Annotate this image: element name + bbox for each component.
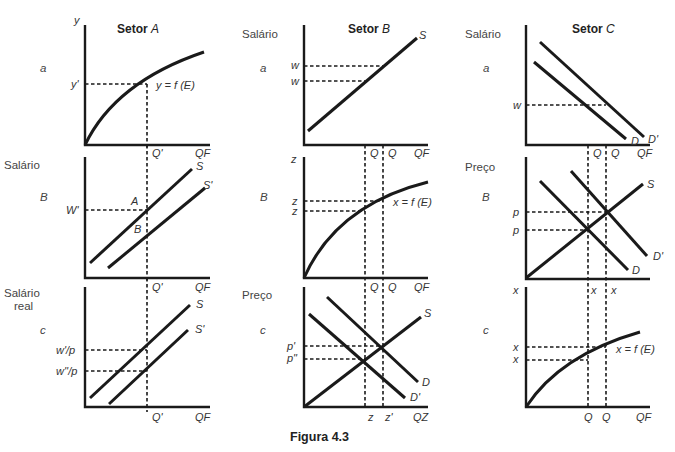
curve-label: x = f (E) bbox=[615, 343, 655, 355]
x-tick-q-1: Q bbox=[584, 411, 593, 423]
x-tick-z: z bbox=[367, 411, 374, 423]
sector-b: Setor B Salário a w w S Q Q QF z B z z x… bbox=[242, 22, 432, 423]
row-label-a: a bbox=[260, 62, 266, 74]
y-tick-x-1: x bbox=[512, 341, 519, 353]
x-axis-label: QF bbox=[195, 147, 212, 159]
y-axis-label: z bbox=[290, 153, 297, 165]
row-label-c: c bbox=[260, 324, 266, 336]
panel-a-c: Salário real c w'/p w''/p S S' Q' QF bbox=[4, 278, 212, 423]
supply-s bbox=[90, 305, 190, 398]
y-tick-w-2: w bbox=[291, 75, 300, 87]
guide-y-prime bbox=[85, 84, 147, 150]
y-tick-w-1: w bbox=[291, 59, 300, 71]
sector-c: Setor C Salário a w D D' Q Q QF Preço B … bbox=[465, 22, 664, 423]
y-axis-label: Preço bbox=[242, 289, 272, 301]
x-tick-q-2: Q bbox=[388, 281, 397, 293]
sector-a-title: Setor A bbox=[117, 22, 159, 36]
x-tick-q-1: Q bbox=[593, 147, 602, 159]
row-label-c: c bbox=[483, 324, 489, 336]
x-tick-q-prime: Q' bbox=[152, 281, 164, 293]
panel-b-a: Salário a w w S Q Q QF bbox=[242, 25, 431, 159]
supply-s-label: S bbox=[647, 178, 655, 190]
y-tick-p-prime: p' bbox=[286, 340, 296, 352]
point-b: B bbox=[134, 223, 141, 235]
demand-d-prime bbox=[571, 171, 647, 256]
supply-s-label: S bbox=[196, 298, 204, 310]
row-label-b: B bbox=[40, 191, 48, 203]
x-axis-label: QZ bbox=[413, 411, 430, 423]
panel-c-c: x c x x x x x = f (E) Q Q QF bbox=[483, 145, 655, 423]
y-axis-label: y bbox=[73, 14, 81, 26]
x-tick-x-1: x bbox=[590, 284, 597, 296]
x-tick-q-1: Q bbox=[370, 281, 379, 293]
y-tick-p-2: p bbox=[512, 224, 519, 236]
y-tick-p-1: p bbox=[512, 206, 519, 218]
supply-s bbox=[308, 38, 417, 131]
supply-s-label: S bbox=[424, 307, 432, 319]
x-axis-label: QF bbox=[195, 411, 212, 423]
x-axis-label: QF bbox=[195, 281, 212, 293]
demand-d-prime-label: D' bbox=[410, 391, 421, 403]
y-tick-w-prime: W' bbox=[66, 204, 79, 216]
y-axis-label-1: Salário bbox=[4, 287, 40, 299]
demand-d-label: D bbox=[632, 264, 640, 276]
guide-horizontal bbox=[526, 212, 606, 230]
x-tick-q-2: Q bbox=[611, 147, 620, 159]
demand-d-prime bbox=[540, 42, 644, 137]
supply-s-label: S bbox=[419, 29, 427, 41]
x-tick-x-2: x bbox=[610, 284, 617, 296]
panel-b-b: z B z z x = f (E) Q Q QF bbox=[260, 153, 432, 293]
y-axis-label: x bbox=[512, 284, 519, 296]
guide-lines bbox=[85, 278, 147, 412]
demand-d-prime-label: D' bbox=[648, 133, 659, 145]
y-axis-label-2: real bbox=[14, 300, 33, 312]
x-tick-q-2: Q bbox=[388, 147, 397, 159]
axes bbox=[304, 287, 428, 407]
x-axis-label: QF bbox=[414, 281, 431, 293]
point-a: A bbox=[130, 195, 138, 207]
sector-c-title: Setor C bbox=[572, 22, 615, 36]
row-label-b: B bbox=[482, 191, 490, 203]
panel-c-a: Salário a w D D' Q Q QF bbox=[465, 25, 659, 159]
y-axis-label: Salário bbox=[4, 159, 40, 171]
axes bbox=[304, 157, 428, 278]
x-tick-q-prime: Q' bbox=[152, 147, 164, 159]
y-tick-z-2: z bbox=[291, 205, 298, 217]
demand-d-prime-label: D' bbox=[653, 250, 664, 262]
supply-s-prime bbox=[109, 330, 188, 404]
y-tick-w: w bbox=[513, 99, 522, 111]
supply-s-prime-label: S' bbox=[195, 323, 205, 335]
row-label-a: a bbox=[483, 62, 489, 74]
panel-c-b: Preço B p p S D D' bbox=[465, 157, 664, 279]
supply-s-label: S bbox=[196, 160, 204, 172]
x-tick-q-1: Q bbox=[370, 147, 379, 159]
x-tick-q-prime: Q' bbox=[152, 411, 164, 423]
y-tick-w-dprime-p: w''/p bbox=[56, 365, 77, 377]
production-curve bbox=[85, 52, 204, 145]
y-axis-label: Salário bbox=[242, 28, 278, 40]
figure-canvas: Setor A a y y' y = f (E) Q' QF Salário B… bbox=[0, 0, 675, 452]
demand-d-label: D bbox=[631, 135, 639, 147]
row-label-c: c bbox=[40, 324, 46, 336]
row-label-a: a bbox=[40, 62, 46, 74]
y-tick-w-prime-p: w'/p bbox=[56, 344, 75, 356]
row-label-b: B bbox=[260, 191, 268, 203]
sector-a: Setor A a y y' y = f (E) Q' QF Salário B… bbox=[4, 14, 213, 423]
y-axis-label: Preço bbox=[465, 161, 495, 173]
x-axis-label: QF bbox=[637, 147, 654, 159]
panel-a-b: Salário B W' A B S S' Q' QF bbox=[4, 145, 213, 293]
curve-label: y = f (E) bbox=[155, 79, 195, 91]
y-tick-x-2: x bbox=[512, 353, 519, 365]
x-tick-z-prime: z' bbox=[384, 411, 394, 423]
y-tick-y-prime: y' bbox=[70, 78, 80, 90]
x-tick-q-2: Q bbox=[602, 411, 611, 423]
demand-d bbox=[534, 62, 626, 139]
y-tick-p-dprime: p" bbox=[286, 352, 298, 364]
x-axis-label: QF bbox=[636, 411, 653, 423]
sector-b-title: Setor B bbox=[348, 22, 390, 36]
supply-s-prime-label: S' bbox=[203, 179, 213, 191]
y-axis-label: Salário bbox=[465, 28, 501, 40]
figure-caption: Figura 4.3 bbox=[290, 430, 349, 444]
curve-label: x = f (E) bbox=[392, 196, 432, 208]
panel-b-c: Preço c p' p" S D D' z z' QZ bbox=[242, 145, 432, 423]
